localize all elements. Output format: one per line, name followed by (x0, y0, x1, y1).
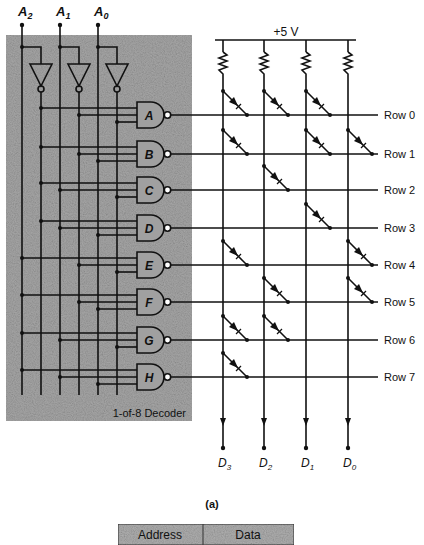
table-header-address: Address (138, 528, 182, 542)
junction-dot (115, 270, 119, 274)
junction-dot (39, 106, 43, 110)
resistor-icon (302, 52, 310, 78)
junction-dot (245, 152, 249, 156)
arrow-down-icon (345, 418, 351, 426)
junction-dot (328, 226, 332, 230)
junction-dot (328, 113, 332, 117)
junction-dot (39, 145, 43, 149)
gate-label-d: D (145, 222, 154, 236)
junction-dot (20, 368, 24, 372)
junction-dot (77, 300, 81, 304)
junction-dot (245, 113, 249, 117)
junction-dot (370, 152, 374, 156)
junction-dot (96, 233, 100, 237)
nand-bubble (164, 337, 170, 343)
junction-dot (245, 263, 249, 267)
junction-dot (77, 113, 81, 117)
input-label-a1: A1 (55, 4, 70, 21)
junction-dot (20, 256, 24, 260)
junction-dot (286, 338, 290, 342)
nand-bubble (164, 187, 170, 193)
junction-dot (39, 219, 43, 223)
output-label-d0: D0 (343, 456, 357, 472)
output-terminal (221, 446, 225, 450)
junction-dot (96, 159, 100, 163)
junction-dot (245, 338, 249, 342)
junction-dot (58, 338, 62, 342)
input-label-a2: A2 (17, 4, 32, 21)
arrow-down-icon (220, 418, 226, 426)
row-label-6: Row 6 (384, 334, 415, 346)
arrow-down-icon (303, 418, 309, 426)
junction-dot (77, 152, 81, 156)
input-label-a0: A0 (93, 4, 108, 21)
junction-dot (115, 120, 119, 124)
junction-dot (286, 300, 290, 304)
output-terminal (262, 446, 266, 450)
gate-label-b: B (145, 148, 154, 162)
junction-dot (39, 181, 43, 185)
row-label-4: Row 4 (384, 259, 415, 271)
junction-dot (245, 375, 249, 379)
nand-bubble (164, 151, 170, 157)
gate-label-a: A (144, 109, 154, 123)
row-label-1: Row 1 (384, 148, 415, 160)
output-label-d2: D2 (259, 456, 273, 472)
junction-dot (77, 263, 81, 267)
figure-caption: (a) (205, 498, 219, 510)
junction-dot (115, 345, 119, 349)
junction-dot (370, 300, 374, 304)
junction-dot (20, 331, 24, 335)
rom-diode-matrix-diagram: A2A1A0ARow 0BRow 1CRow 2DRow 3ERow 4FRow… (0, 0, 424, 545)
row-label-0: Row 0 (384, 109, 415, 121)
row-label-5: Row 5 (384, 296, 415, 308)
output-label-d1: D1 (301, 456, 314, 472)
junction-dot (58, 188, 62, 192)
junction-dot (286, 113, 290, 117)
nand-bubble (164, 112, 170, 118)
truth-table-header: Address Data (118, 524, 294, 545)
row-label-3: Row 3 (384, 222, 415, 234)
nand-bubble (164, 299, 170, 305)
arrow-down-icon (261, 418, 267, 426)
resistor-icon (260, 52, 268, 78)
decoder-label: 1-of-8 Decoder (113, 407, 187, 419)
nand-bubble (164, 225, 170, 231)
nand-bubble (164, 262, 170, 268)
junction-dot (58, 226, 62, 230)
resistor-icon (219, 52, 227, 78)
gate-label-e: E (145, 259, 154, 273)
output-terminal (346, 446, 350, 450)
row-label-7: Row 7 (384, 371, 415, 383)
gate-label-g: G (144, 334, 153, 348)
table-header-data: Data (235, 528, 261, 542)
gate-label-c: C (145, 184, 154, 198)
nand-bubble (164, 374, 170, 380)
junction-dot (115, 195, 119, 199)
output-terminal (304, 446, 308, 450)
junction-dot (286, 188, 290, 192)
output-label-d3: D3 (218, 456, 232, 472)
row-label-2: Row 2 (384, 184, 415, 196)
diode-matrix (171, 40, 378, 450)
junction-dot (96, 382, 100, 386)
resistor-icon (344, 52, 352, 78)
junction-dot (58, 375, 62, 379)
gate-label-f: F (145, 296, 153, 310)
junction-dot (96, 307, 100, 311)
supply-label: +5 V (273, 25, 298, 39)
junction-dot (328, 152, 332, 156)
junction-dot (370, 263, 374, 267)
junction-dot (20, 293, 24, 297)
gate-label-h: H (145, 371, 154, 385)
